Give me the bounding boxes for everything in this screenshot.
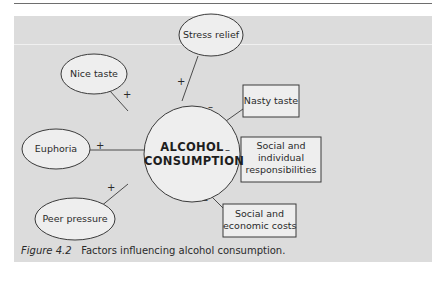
- node-peer-pressure: Peer pressure: [35, 213, 115, 225]
- node-social-individual-line1: Social and: [241, 140, 321, 152]
- node-social-economic-line2: economic costs: [223, 220, 296, 232]
- figure-caption: Figure 4.2 Factors influencing alcohol c…: [21, 245, 285, 256]
- sign-peer-pressure: +: [107, 183, 115, 193]
- node-social-individual: Social and individual responsibilities: [241, 140, 321, 176]
- sign-stress-relief: +: [177, 77, 185, 87]
- node-social-individual-line3: responsibilities: [241, 164, 321, 176]
- node-nice-taste: Nice taste: [61, 68, 127, 80]
- sign-nice-taste: +: [123, 90, 131, 100]
- node-social-individual-line2: individual: [241, 152, 321, 164]
- node-stress-relief: Stress relief: [179, 29, 243, 41]
- node-euphoria: Euphoria: [22, 143, 90, 155]
- figure-caption-spacer: [75, 245, 78, 256]
- node-social-economic: Social and economic costs: [223, 208, 296, 232]
- node-social-economic-line1: Social and: [223, 208, 296, 220]
- sign-euphoria: +: [96, 141, 104, 151]
- sign-social-economic: –: [203, 195, 208, 205]
- node-nasty-taste: Nasty taste: [243, 95, 299, 107]
- sign-social-individual: –: [225, 145, 230, 155]
- figure-caption-text: Factors influencing alcohol consumption.: [81, 245, 285, 256]
- sign-nasty-taste: –: [208, 102, 213, 112]
- connector-nasty-taste: [226, 109, 243, 121]
- figure-caption-label: Figure 4.2: [21, 245, 72, 256]
- center-label-line2: CONSUMPTION: [144, 154, 240, 168]
